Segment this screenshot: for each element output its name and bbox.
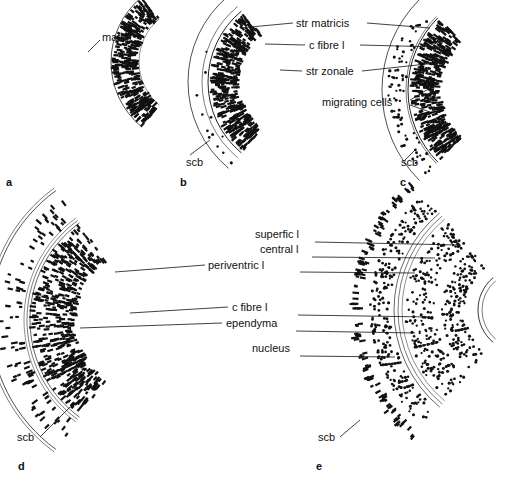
label-ependyma: ependyma (226, 317, 277, 329)
label-scb: scb (401, 156, 418, 168)
label-migrating-cells: migrating cells (322, 96, 392, 108)
histology-drawing (0, 0, 510, 480)
panel-letter-c: c (400, 176, 406, 188)
panel-letter-e: e (316, 460, 322, 472)
label-matrix: matrix (102, 31, 132, 43)
figure: a b c d e matrixstr matricisc fibre lstr… (0, 0, 510, 480)
label-c-fibre-l: c fibre l (309, 39, 344, 51)
label-scb: scb (186, 156, 203, 168)
panel-letter-d: d (18, 460, 25, 472)
label-central-l: central l (260, 243, 299, 255)
label-str-matricis: str matricis (296, 17, 349, 29)
panel-letter-b: b (180, 176, 187, 188)
label-c-fibre-l: c fibre l (232, 301, 267, 313)
panel-letter-a: a (6, 176, 12, 188)
label-scb: scb (17, 431, 34, 443)
label-periventric-l: periventric l (208, 259, 264, 271)
label-str-zonale: str zonale (306, 65, 354, 77)
label-superfic-l: superfic l (255, 228, 299, 240)
label-nucleus: nucleus (252, 342, 290, 354)
label-scb: scb (318, 431, 335, 443)
